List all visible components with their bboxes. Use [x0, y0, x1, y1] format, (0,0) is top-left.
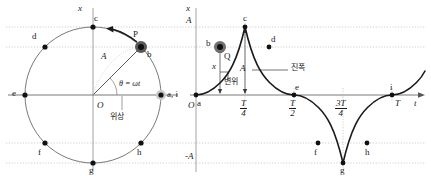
- circle-point-label-d: d: [32, 32, 37, 41]
- angle-arc: [110, 78, 117, 95]
- circle-point-f: [42, 140, 47, 145]
- wave-amplitude-neg-axis-label: -A: [185, 152, 194, 161]
- phase-label: 위상: [110, 113, 124, 121]
- angle-label: θ = ωt: [119, 80, 140, 88]
- circle-point-ai: [158, 92, 163, 97]
- wave-point-label-h: h: [365, 148, 370, 157]
- wave-vertical-axis-label: x: [186, 4, 190, 13]
- circle-point-label-f: f: [38, 148, 41, 157]
- wave-point-label-e: e: [295, 83, 299, 92]
- circle-point-p: [138, 44, 144, 50]
- tick-denominator: 4: [240, 109, 247, 118]
- tick-label-t-over-2: T 2: [289, 99, 296, 119]
- wave-point-e: [292, 93, 297, 98]
- circle-point-label-h: h: [137, 148, 142, 157]
- wave-point-label-c: c: [243, 14, 247, 23]
- displacement-annotation-label: 변위: [224, 78, 238, 86]
- t-axis-arrowhead: [418, 92, 425, 97]
- wave-point-i: [390, 93, 395, 98]
- circle-point-label-g: g: [89, 166, 94, 175]
- circle-point-label-e: e: [12, 89, 16, 98]
- wave-point-d: [267, 45, 272, 50]
- amplitude-annotation-label: 진폭: [291, 64, 305, 72]
- wave-point-q: [217, 44, 223, 50]
- circle-vertical-axis-label: x: [78, 4, 82, 13]
- tick-label-t: T: [395, 99, 400, 108]
- circle-point-c: [90, 24, 95, 29]
- physics-figure: x c d e f g h a, i b P O A θ = ωt 위상 x A…: [0, 0, 431, 176]
- wave-origin-label: O: [188, 101, 195, 110]
- wave-point-h: [365, 141, 370, 146]
- wave-point-label-g: g: [340, 166, 345, 175]
- circle-point-label-b: b: [147, 50, 152, 59]
- amplitude-symbol-label: A: [240, 64, 246, 73]
- circle-point-h: [138, 140, 143, 145]
- wave-point-a: [194, 93, 199, 98]
- wave-point-label-i: i: [390, 83, 393, 92]
- wave-point-label-d: d: [271, 35, 276, 44]
- displacement-arrow-bottom: [218, 89, 222, 94]
- displacement-symbol-label: x: [212, 62, 216, 71]
- moving-point-label-p: P: [133, 30, 138, 39]
- wave-point-label-f: f: [314, 148, 317, 157]
- wave-point-label-b: b: [206, 39, 211, 48]
- circle-point-label-c: c: [94, 14, 98, 23]
- circle-point-label-ai: a, i: [167, 90, 178, 99]
- moving-point-label-q: Q: [224, 52, 231, 61]
- amplitude-arrow-bottom: [243, 89, 247, 94]
- circle-point-d: [42, 44, 47, 49]
- circle-radius-label: A: [101, 52, 107, 61]
- tick-denominator: 2: [289, 109, 296, 118]
- tick-label-3t-over-4: 3T 4: [335, 99, 347, 119]
- circle-origin-label: O: [97, 101, 104, 110]
- wave-point-label-a: a: [197, 99, 201, 108]
- wave-amplitude-axis-label: A: [186, 16, 192, 25]
- tick-denominator: 4: [335, 109, 347, 118]
- tick-label-t-over-4: T 4: [240, 99, 247, 119]
- wave-point-f: [316, 141, 321, 146]
- wave-horizontal-axis-label: t: [414, 99, 417, 108]
- circle-point-e: [22, 92, 27, 97]
- wave-point-c: [243, 25, 248, 30]
